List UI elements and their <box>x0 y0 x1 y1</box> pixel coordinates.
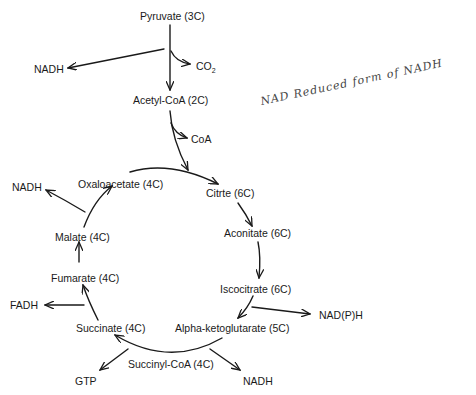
node-fumarate: Fumarate (4C) <box>51 273 119 284</box>
byproduct-co2: CO2 <box>196 61 216 74</box>
node-pyruvate: Pyruvate (3C) <box>140 11 205 22</box>
node-oxaloacetate: Oxaloacetate (4C) <box>78 179 163 190</box>
arrow-isocitrate-akg <box>238 296 253 318</box>
node-aconitate: Aconitate (6C) <box>224 228 291 239</box>
node-malate: Malate (4C) <box>55 232 110 243</box>
node-citrate: Citrte (6C) <box>206 188 254 199</box>
arrow-malate-nadh <box>46 190 85 212</box>
byproduct-nadh-pyruvate: NADH <box>34 64 64 75</box>
arrow-citrate-aconitate <box>238 203 252 226</box>
node-isocitrate: Iscocitrate (6C) <box>220 284 291 295</box>
arrow-isocitrate-nadph <box>252 307 310 314</box>
node-acetyl-coa: Acetyl-CoA (2C) <box>133 95 208 106</box>
byproduct-nadph: NAD(P)H <box>319 310 363 321</box>
arrow-pyruvate-co2 <box>171 51 190 64</box>
arrow-succinate-fumarate <box>83 285 98 320</box>
byproduct-coa: CoA <box>191 134 211 145</box>
byproduct-nadh-malate: NADH <box>12 182 42 193</box>
node-succinyl-coa: Succinyl-CoA (4C) <box>128 359 214 370</box>
arrow-succinylcoa-gtp <box>100 349 128 370</box>
byproduct-fadh: FADH <box>10 300 38 311</box>
arrow-acetylcoa-citrate <box>170 111 188 170</box>
byproduct-gtp: GTP <box>75 376 97 387</box>
krebs-cycle-diagram: Pyruvate (3C) Acetyl-CoA (2C) Citrte (6C… <box>0 0 476 395</box>
arrow-akg-succinate <box>115 335 222 352</box>
node-alpha-ketoglutarate: Alpha-ketoglutarate (5C) <box>175 323 289 334</box>
arrow-malate-oxaloacetate <box>84 186 112 227</box>
byproduct-nadh-akg: NADH <box>243 376 273 387</box>
arrow-aconitate-isocitrate <box>258 242 260 278</box>
arrow-pyruvate-nadh <box>68 49 164 68</box>
arrow-akg-nadh <box>210 349 240 370</box>
node-succinate: Succinate (4C) <box>76 323 145 334</box>
